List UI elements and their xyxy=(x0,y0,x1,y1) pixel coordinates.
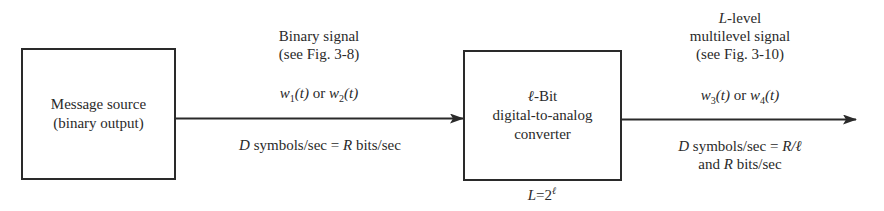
dac-block: ℓ-Bit digital-to-analog converter xyxy=(463,50,622,181)
dac-label-line2: digital-to-analog xyxy=(493,106,593,125)
multilevel-signal-title: L-level multilevel signal (see Fig. 3-10… xyxy=(640,9,840,63)
source-label-line1: Message source xyxy=(51,95,146,114)
dac-label-line1: ℓ-Bit xyxy=(528,87,558,106)
multilevel-waveforms: w3(t) or w4(t) xyxy=(640,86,840,104)
binary-signal-title: Binary signal (see Fig. 3-8) xyxy=(219,27,419,63)
source-label-line2: (binary output) xyxy=(53,114,143,133)
dac-levels-label: L=2ℓ xyxy=(500,186,584,204)
dac-label-line3: converter xyxy=(514,125,571,144)
message-source-block: Message source (binary output) xyxy=(21,48,176,180)
binary-waveforms: w1(t) or w2(t) xyxy=(219,84,419,102)
multilevel-rate: D symbols/sec = R/ℓ and R bits/sec xyxy=(640,137,840,173)
binary-rate: D symbols/sec = R bits/sec xyxy=(170,136,470,154)
